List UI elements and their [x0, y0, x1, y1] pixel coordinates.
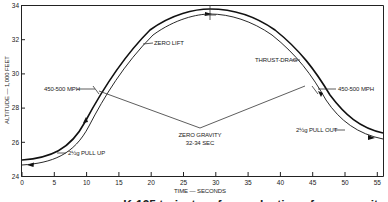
zero-lift-leader — [143, 43, 153, 44]
y-tick-label: 32 — [12, 36, 20, 43]
x-tick-label: 15 — [115, 179, 123, 186]
marker-ticks — [93, 5, 318, 94]
zero-gravity-leaders — [99, 86, 305, 128]
x-tick-label: 5 — [52, 179, 56, 186]
figure-caption: ... K-135 trajectory for production of z… — [110, 198, 385, 202]
x-tick-label: 45 — [309, 179, 317, 186]
y-tick-label: 24 — [12, 173, 20, 180]
pull-out-label: 2½g PULL OUT — [296, 127, 338, 133]
thrust-drag-label: THRUST-DRAG — [255, 57, 298, 63]
x-tick-label: 30 — [212, 179, 220, 186]
x-tick-label: 55 — [374, 179, 382, 186]
caption-cutoff: ... K-135 trajectory for production of z… — [110, 198, 385, 202]
x-tick-label: 50 — [341, 179, 349, 186]
zero-lift-label: ZERO LIFT — [154, 40, 184, 46]
x-ticks: 0 5 10 15 20 25 30 35 40 45 50 55 — [20, 172, 381, 186]
parabolic-flight-chart: 24 26 28 30 32 34 ALTITUDE — 1,000 FEET … — [0, 0, 388, 202]
x-tick-label: 35 — [244, 179, 252, 186]
y-tick-label: 34 — [12, 2, 20, 9]
zero-gravity-duration-label: 32-34 SEC — [186, 140, 215, 146]
x-tick-label: 0 — [20, 179, 24, 186]
x-tick-label: 20 — [148, 179, 156, 186]
arrow-left-icon — [27, 163, 34, 168]
y-ticks: 24 26 28 30 32 34 — [12, 2, 25, 180]
arrow-down-icon — [318, 91, 323, 97]
x-tick-label: 40 — [277, 179, 285, 186]
pull-up-label: 2½g PULL UP — [68, 150, 105, 156]
x-tick-label: 10 — [83, 179, 91, 186]
y-tick-label: 26 — [12, 139, 20, 146]
y-axis-title: ALTITUDE — 1,000 FEET — [4, 56, 10, 124]
x-tick-label: 25 — [180, 179, 188, 186]
zero-gravity-label: ZERO GRAVITY — [178, 132, 221, 138]
speed-label-left: 450-500 MPH — [44, 86, 80, 92]
y-tick-label: 28 — [12, 104, 20, 111]
speed-label-right: 450-500 MPH — [338, 86, 374, 92]
y-tick-label: 30 — [12, 70, 20, 77]
x-axis-title: TIME — SECONDS — [174, 188, 226, 194]
